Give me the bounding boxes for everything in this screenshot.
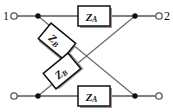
lattice-network-diagram: ZB ZB ZA ZA xyxy=(0,0,173,112)
terminal-1-label: 1 xyxy=(3,9,9,23)
node-bottom-right xyxy=(132,93,137,98)
node-bottom-left xyxy=(35,93,40,98)
impedance-za-bottom[interactable]: ZA xyxy=(78,86,112,108)
terminal-2-circle[interactable] xyxy=(156,13,162,19)
circuit-schematic-canvas: ZB ZB ZA ZA xyxy=(0,0,173,112)
node-top-left xyxy=(35,13,40,18)
node-top-right xyxy=(132,13,137,18)
impedance-zb-lower[interactable]: ZB xyxy=(43,52,83,91)
impedance-za-top[interactable]: ZA xyxy=(78,6,112,28)
terminal-1-prime-circle[interactable] xyxy=(11,93,17,99)
terminal-2-label: 2 xyxy=(164,9,170,23)
terminal-2-prime-circle[interactable] xyxy=(156,93,162,99)
terminal-1-circle[interactable] xyxy=(11,13,17,19)
